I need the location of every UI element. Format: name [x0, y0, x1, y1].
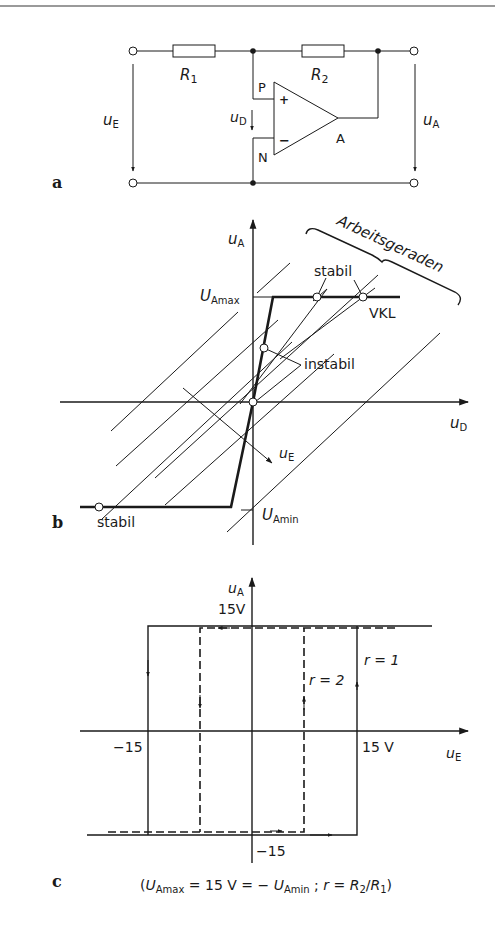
junction-node	[375, 48, 381, 54]
uamax-label: UAmax	[200, 287, 240, 306]
x-right-tick-label: 15 V	[362, 739, 394, 755]
caption: (UAmax = 15 V = − UAmin ; r = R2/R1)	[140, 877, 392, 895]
input-terminal	[129, 179, 137, 187]
unstable-point	[249, 398, 257, 406]
input-terminal	[129, 47, 137, 55]
panel-c-hysteresis: c uA 15V −15 −15 15 V uE r = 1 r = 2 (UA…	[52, 578, 468, 895]
feedback-wire	[338, 51, 378, 118]
r2-label: r = 2	[309, 672, 344, 688]
output-pin-label: A	[336, 131, 345, 146]
ua-axis-label: uA	[228, 580, 244, 598]
stabil-bottom-label: stabil	[97, 514, 135, 530]
unstable-point	[260, 344, 268, 352]
ue-arrow-label: uE	[279, 445, 294, 463]
ua-axis-label: uA	[228, 230, 245, 249]
stabil-top-label: stabil	[314, 263, 352, 279]
x-left-tick-label: −15	[113, 739, 143, 755]
r1-label: R1	[180, 66, 197, 86]
stable-point	[313, 293, 321, 301]
vkl-label: VKL	[369, 305, 396, 321]
figure-canvas: a R1 R2 P N + − A uE	[0, 0, 495, 933]
ue-axis-label: uE	[446, 745, 461, 763]
y-bottom-tick-label: −15	[256, 843, 286, 859]
pin-n-label: N	[258, 150, 268, 165]
junction-node	[250, 48, 256, 54]
panel-b-label: b	[52, 513, 63, 532]
panel-b-characteristic: b	[52, 211, 468, 545]
minus-sign: −	[279, 133, 290, 148]
output-terminal	[410, 179, 418, 187]
panel-a-label: a	[52, 173, 62, 192]
stable-point	[95, 503, 103, 511]
panel-a-circuit: a R1 R2 P N + − A uE	[52, 45, 440, 192]
resistor-r1	[173, 45, 215, 57]
junction-node	[250, 180, 256, 186]
r1-label: r = 1	[364, 652, 399, 668]
ud-axis-label: uD	[450, 414, 468, 433]
r2-label: R2	[311, 66, 328, 86]
y-top-tick-label: 15V	[218, 601, 246, 617]
instabil-label: instabil	[304, 356, 355, 372]
resistor-r2	[302, 45, 344, 57]
r2-loop-right	[108, 628, 304, 832]
uamin-label: UAmin	[262, 506, 299, 525]
pin-p-label: P	[258, 80, 266, 95]
ua-label: uA	[423, 111, 440, 130]
stable-point	[359, 293, 367, 301]
plus-sign: +	[279, 93, 289, 107]
panel-c-label: c	[52, 872, 62, 891]
ud-label: uD	[230, 109, 247, 127]
ue-label: uE	[103, 111, 119, 130]
output-terminal	[410, 47, 418, 55]
